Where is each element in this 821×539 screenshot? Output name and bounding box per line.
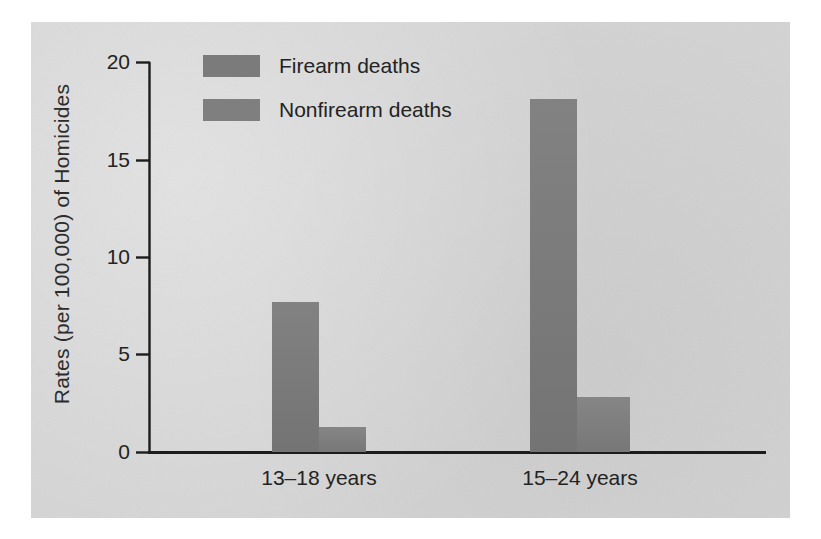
legend-item-nonfirearm: Nonfirearm deaths xyxy=(203,92,452,128)
x-tick-label-15-24: 15–24 years xyxy=(522,466,638,490)
legend-label-firearm: Firearm deaths xyxy=(279,54,420,78)
legend-item-firearm: Firearm deaths xyxy=(203,48,452,84)
legend-swatch-nonfirearm-icon xyxy=(203,99,260,121)
plot-area: 20 15 10 5 0 13–18 years 15–24 years Fir… xyxy=(0,0,821,539)
y-tick-label-15: 15 xyxy=(88,148,130,172)
y-tick-label-10: 10 xyxy=(88,245,130,269)
legend-label-nonfirearm: Nonfirearm deaths xyxy=(279,98,452,122)
bar-nonfirearm-13-18 xyxy=(319,427,366,452)
bar-nonfirearm-15-24 xyxy=(577,397,630,452)
x-tick-label-13-18: 13–18 years xyxy=(261,466,377,490)
y-tick-label-5: 5 xyxy=(88,342,130,366)
y-tick-label-20: 20 xyxy=(88,50,130,74)
bar-firearm-15-24 xyxy=(530,99,577,452)
figure-root: Rates (per 100,000) of Homicides 20 15 1… xyxy=(0,0,821,539)
bar-firearm-13-18 xyxy=(272,302,319,452)
legend-swatch-firearm-icon xyxy=(203,55,260,77)
y-tick-label-0: 0 xyxy=(88,440,130,464)
chart-legend: Firearm deaths Nonfirearm deaths xyxy=(203,48,452,136)
